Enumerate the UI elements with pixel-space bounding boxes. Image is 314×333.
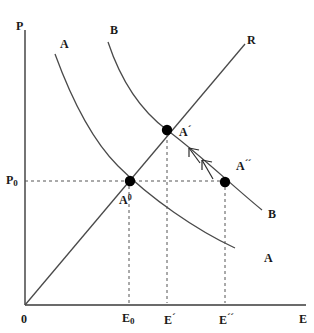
tick-label-e-double-prime: E´´ — [219, 312, 233, 326]
e-axis-label-text: E — [299, 312, 307, 326]
economics-diagram: P E 0 P0 E0 E´ E´´ A A B B R A0 A´ A´ — [0, 0, 314, 333]
curve-label-r: R — [247, 34, 256, 46]
point-a-double-prime — [220, 177, 230, 187]
curve-label-b-bottom-text: B — [268, 207, 276, 221]
tick-label-e-double-prime-mark: ´´ — [227, 311, 233, 323]
curve-label-b-bottom: B — [268, 208, 276, 220]
tick-label-e-double-prime-text: E — [219, 313, 227, 327]
point-label-a-zero: A0 — [119, 194, 132, 206]
point-label-a-double-prime-text: A — [236, 159, 245, 173]
point-a-zero — [125, 176, 135, 186]
curve-label-a-top-text: A — [60, 37, 69, 51]
ray-r — [25, 44, 245, 305]
curve-label-a-bottom: A — [264, 252, 273, 264]
p-axis-label-text: P — [16, 19, 23, 33]
tick-label-e0: E0 — [122, 312, 135, 326]
tick-label-p0: P0 — [6, 174, 18, 188]
plot-canvas — [0, 0, 314, 333]
point-a-prime — [162, 125, 172, 135]
e-axis-label: E — [299, 313, 307, 325]
point-label-a-double-prime: A´´ — [236, 158, 251, 172]
point-label-a-prime-text: A — [179, 125, 188, 139]
point-label-a-zero-text: A — [119, 193, 128, 207]
tick-label-e-prime-mark: ´ — [172, 311, 175, 323]
tick-label-e0-subscript: 0 — [130, 316, 135, 326]
point-label-a-prime-mark: ´ — [188, 123, 191, 135]
point-label-a-prime: A´ — [179, 124, 191, 138]
tick-label-p0-subscript: 0 — [13, 178, 18, 188]
point-label-a-zero-superscript: 0 — [128, 193, 132, 202]
curve-label-a-top: A — [60, 38, 69, 50]
tick-label-e0-text: E — [122, 311, 130, 325]
tick-label-e-prime-text: E — [164, 313, 172, 327]
curve-label-b-top: B — [110, 24, 118, 36]
p-axis-label: P — [16, 20, 23, 32]
tick-label-e-prime: E´ — [164, 312, 175, 326]
origin-label: 0 — [21, 313, 27, 325]
curve-a — [55, 54, 235, 248]
curve-label-a-bottom-text: A — [264, 251, 273, 265]
curve-label-r-text: R — [247, 33, 256, 47]
curve-label-b-top-text: B — [110, 23, 118, 37]
point-label-a-double-prime-mark: ´´ — [245, 157, 251, 169]
origin-label-text: 0 — [21, 312, 27, 326]
